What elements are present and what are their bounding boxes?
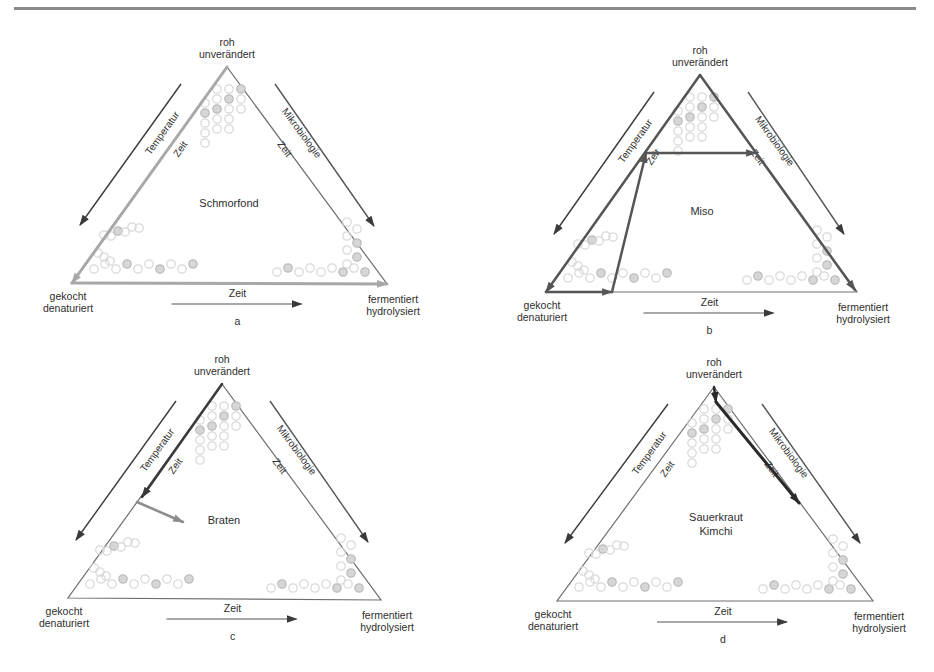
molecule-circle-icon: [564, 274, 572, 282]
zeit-bottom-label: Zeit: [701, 296, 719, 308]
molecule-circle-icon: [686, 123, 694, 131]
molecule-circle-icon: [322, 580, 330, 588]
molecule-circle-icon: [185, 575, 193, 583]
molecule-circle-icon: [156, 265, 164, 273]
molecule-circle-icon: [712, 435, 720, 443]
vertex-label-fermentiert: fermentiert: [854, 610, 904, 622]
molecule-circle-icon: [337, 534, 345, 542]
molecule-circle-icon: [814, 581, 822, 589]
molecule-circle-icon: [134, 265, 142, 273]
process-path-arrow: [137, 502, 183, 522]
molecule-circle-icon: [781, 585, 789, 593]
molecule-circle-icon: [700, 435, 708, 443]
vertex-label-roh: roh: [706, 356, 721, 368]
molecule-circle-icon: [208, 432, 216, 440]
molecule-circle-icon: [278, 580, 286, 588]
molecule-circle-icon: [284, 264, 292, 272]
vertex-label-gekocht: gekocht: [50, 290, 87, 302]
vertex-label-hydrolysiert: hydrolysiert: [360, 621, 414, 633]
molecule-circle-icon: [575, 583, 583, 591]
molecule-circle-icon: [724, 425, 732, 433]
molecule-circle-icon: [641, 269, 649, 277]
vertex-label-roh: roh: [692, 44, 707, 56]
molecule-circle-icon: [698, 113, 706, 121]
center-label: Schmorfond: [199, 197, 258, 209]
vertex-label-denaturiert: denaturiert: [528, 620, 578, 632]
molecule-circle-icon: [306, 264, 314, 272]
molecule-circle-icon: [712, 425, 720, 433]
molecule-circle-icon: [829, 535, 837, 543]
molecule-circle-icon: [619, 583, 627, 591]
molecule-circle-icon: [196, 436, 204, 444]
molecule-circle-icon: [674, 117, 682, 125]
molecule-circle-icon: [119, 575, 127, 583]
molecule-circle-icon: [86, 580, 94, 588]
molecule-circle-icon: [167, 260, 175, 268]
molecule-circle-icon: [579, 567, 587, 575]
molecule-circle-icon: [743, 276, 751, 284]
molecule-circle-icon: [663, 583, 671, 591]
molecule-circle-icon: [220, 402, 228, 410]
triangle-panel-d: TemperaturZeitMikrobiologieZeitrohunverä…: [528, 356, 906, 645]
molecule-circle-icon: [123, 260, 131, 268]
molecule-circle-icon: [201, 139, 209, 147]
molecule-circle-icon: [803, 585, 811, 593]
molecule-circle-icon: [201, 129, 209, 137]
molecule-circle-icon: [839, 570, 847, 578]
molecule-circle-icon: [674, 137, 682, 145]
molecule-circle-icon: [823, 261, 831, 269]
molecule-circle-icon: [776, 272, 784, 280]
molecule-circle-icon: [178, 265, 186, 273]
molecule-circle-icon: [90, 265, 98, 273]
molecule-circle-icon: [686, 133, 694, 141]
center-label: Miso: [690, 205, 713, 217]
molecule-circle-icon: [353, 225, 361, 233]
molecule-circle-icon: [586, 274, 594, 282]
molecule-circle-icon: [145, 260, 153, 268]
vertex-label-fermentiert: fermentiert: [838, 301, 888, 313]
molecule-circle-icon: [759, 585, 767, 593]
molecule-circle-icon: [347, 569, 355, 577]
molecule-circle-icon: [813, 268, 821, 276]
molecule-circle-icon: [674, 127, 682, 135]
molecule-circle-icon: [300, 580, 308, 588]
molecule-circle-icon: [698, 123, 706, 131]
molecule-circle-icon: [809, 276, 817, 284]
food-transformation-triangles: TemperaturZeitMikrobiologieZeitrohunverä…: [0, 0, 934, 672]
molecule-circle-icon: [688, 449, 696, 457]
molecule-circle-icon: [353, 239, 361, 247]
vertex-label-roh: roh: [219, 36, 234, 48]
molecule-circle-icon: [597, 583, 605, 591]
process-path-arrow: [142, 384, 222, 497]
center-label: Kimchi: [699, 525, 732, 537]
molecule-circle-icon: [688, 459, 696, 467]
molecule-circle-icon: [237, 105, 245, 113]
molecule-circle-icon: [823, 233, 831, 241]
molecule-circle-icon: [839, 556, 847, 564]
vertex-label-unveraendert: unverändert: [672, 56, 728, 68]
triangle-panel-c: TemperaturZeitMikrobiologieZeitrohunverä…: [39, 353, 414, 642]
vertex-label-unveraendert: unverändert: [686, 368, 742, 380]
vertex-label-gekocht: gekocht: [524, 299, 561, 311]
molecule-circle-icon: [712, 445, 720, 453]
molecule-circle-icon: [232, 402, 240, 410]
zeit-right-label: Zeit: [270, 456, 289, 476]
molecule-circle-icon: [825, 585, 833, 593]
molecule-circle-icon: [201, 109, 209, 117]
molecule-circle-icon: [174, 580, 182, 588]
molecule-circle-icon: [686, 103, 694, 111]
molecule-circle-icon: [347, 541, 355, 549]
panel-letter: b: [707, 324, 713, 336]
molecule-circle-icon: [337, 548, 345, 556]
molecule-circle-icon: [829, 563, 837, 571]
molecule-circle-icon: [630, 578, 638, 586]
molecule-circle-icon: [698, 93, 706, 101]
vertex-label-denaturiert: denaturiert: [43, 302, 93, 314]
molecule-circle-icon: [220, 442, 228, 450]
vertex-label-unveraendert: unverändert: [199, 48, 255, 60]
zeit-bottom-label: Zeit: [714, 605, 732, 617]
molecule-circle-icon: [196, 456, 204, 464]
triangle-panel-a: TemperaturZeitMikrobiologieZeitrohunverä…: [43, 36, 420, 327]
panel-letter: a: [235, 315, 241, 327]
molecule-circle-icon: [343, 246, 351, 254]
